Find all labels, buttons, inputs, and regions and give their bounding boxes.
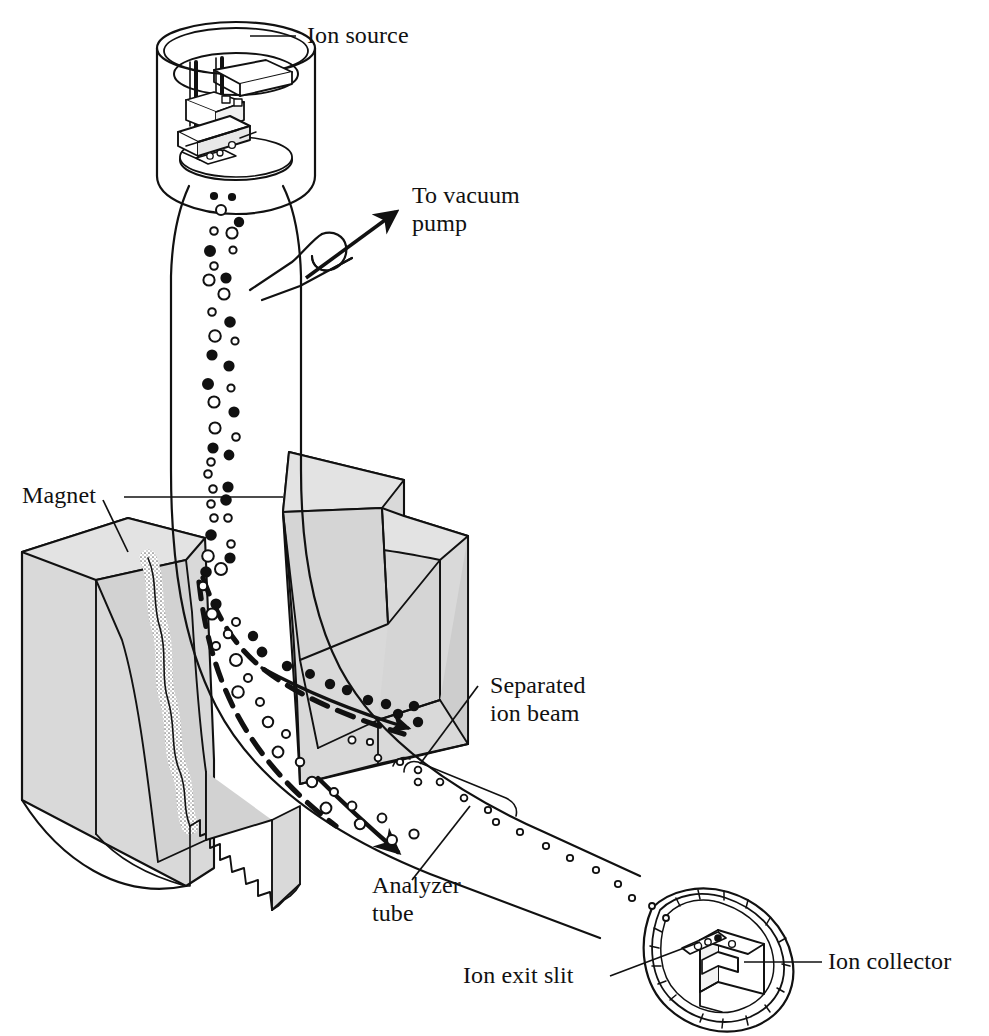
label-to-vacuum-pump-line1: To vacuum	[412, 182, 520, 209]
ion-collector-assembly	[644, 889, 794, 1032]
figure-canvas: Ion source To vacuum pump Magnet Separat…	[0, 0, 989, 1036]
magnet-lower-pole	[22, 518, 300, 1000]
label-analyzer-tube-line1: Analyzer	[372, 872, 461, 899]
label-to-vacuum-pump-line2: pump	[412, 210, 467, 237]
vacuum-pump-arrow	[306, 212, 396, 278]
label-separated-ion-beam-line1: Separated	[490, 672, 586, 699]
magnet-upper-pole	[283, 452, 468, 784]
label-ion-exit-slit: Ion exit slit	[463, 962, 574, 989]
ion-source-chamber	[157, 22, 315, 214]
label-analyzer-tube-line2: tube	[372, 900, 414, 927]
label-magnet: Magnet	[22, 482, 96, 509]
leader-analyzer-tube	[412, 806, 470, 880]
label-separated-ion-beam-line2: ion beam	[490, 700, 579, 727]
label-ion-collector: Ion collector	[828, 948, 951, 975]
label-ion-source: Ion source	[307, 22, 409, 49]
mass-spectrometer-diagram	[0, 0, 989, 1036]
